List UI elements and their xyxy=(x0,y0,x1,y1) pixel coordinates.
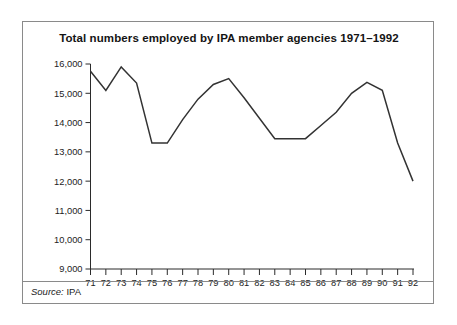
y-axis-tick-label: 15,000 xyxy=(54,89,82,99)
line-chart-plot: 16,00015,00014,00013,00012,00011,00010,0… xyxy=(23,22,435,305)
x-axis-tick-label: 87 xyxy=(331,278,341,288)
x-axis-tick-label: 86 xyxy=(316,278,326,288)
x-axis-tick-label: 75 xyxy=(147,278,157,288)
y-axis-tick-label: 12,000 xyxy=(54,177,82,187)
x-axis-tick-label: 85 xyxy=(300,278,310,288)
y-axis-tick-label: 14,000 xyxy=(54,118,82,128)
x-axis-tick-label: 81 xyxy=(239,278,249,288)
y-axis-tick-label: 9,000 xyxy=(59,264,82,274)
x-axis-tick-label: 76 xyxy=(162,278,172,288)
data-series-line xyxy=(91,67,414,181)
x-axis-tick-label: 73 xyxy=(116,278,126,288)
x-axis-tick-label: 78 xyxy=(193,278,203,288)
y-axis-tick-label: 11,000 xyxy=(55,206,83,216)
x-axis-tick-label: 84 xyxy=(285,278,295,288)
x-axis-tick-label: 89 xyxy=(362,278,372,288)
source-label: Source: xyxy=(31,286,64,297)
source-value: IPA xyxy=(66,286,81,297)
x-axis-tick-label: 92 xyxy=(408,278,418,288)
x-axis-tick-label: 77 xyxy=(177,278,187,288)
x-axis-tick-label: 82 xyxy=(254,278,264,288)
x-axis-tick-label: 79 xyxy=(208,278,218,288)
y-axis-tick-label: 16,000 xyxy=(54,59,82,69)
x-axis-tick-label: 80 xyxy=(224,278,234,288)
x-axis-tick-label: 88 xyxy=(346,278,356,288)
chart-figure: Total numbers employed by IPA member age… xyxy=(22,21,434,304)
x-axis-tick-label: 91 xyxy=(392,278,402,288)
x-axis-tick-label: 71 xyxy=(85,278,95,288)
x-axis-tick-label: 90 xyxy=(377,278,387,288)
source-note: Source: IPA xyxy=(31,286,81,297)
divider xyxy=(23,281,433,282)
y-axis-tick-label: 13,000 xyxy=(54,147,82,157)
x-axis-tick-label: 72 xyxy=(101,278,111,288)
x-axis-tick-label: 74 xyxy=(131,278,141,288)
y-axis-tick-label: 10,000 xyxy=(54,235,82,245)
x-axis-tick-label: 83 xyxy=(270,278,280,288)
